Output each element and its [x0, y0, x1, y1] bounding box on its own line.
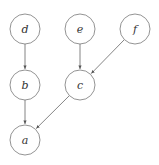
node-e-label: e — [77, 23, 84, 36]
node-d-label: d — [21, 23, 28, 36]
node-f: f — [120, 14, 150, 44]
edge-f-c — [91, 40, 124, 74]
node-a: a — [10, 125, 40, 155]
node-b: b — [10, 70, 40, 100]
node-a-label: a — [22, 134, 29, 147]
node-c-label: c — [77, 79, 83, 92]
graph-canvas: d e f b c a — [0, 0, 159, 165]
node-d: d — [10, 14, 40, 44]
node-c: c — [65, 70, 95, 100]
node-e: e — [65, 14, 95, 44]
node-b-label: b — [21, 79, 28, 92]
edge-c-a — [36, 96, 69, 129]
